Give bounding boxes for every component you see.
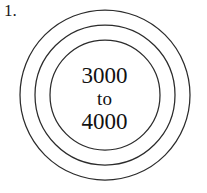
middle-ring: [35, 25, 175, 165]
outer-ring: [20, 10, 190, 180]
inner-ring: [50, 40, 160, 150]
concentric-circle-stack: [0, 0, 207, 193]
concentric-circles-svg: [0, 0, 207, 193]
diagram-root: 1. 3000 to 4000: [0, 0, 207, 193]
